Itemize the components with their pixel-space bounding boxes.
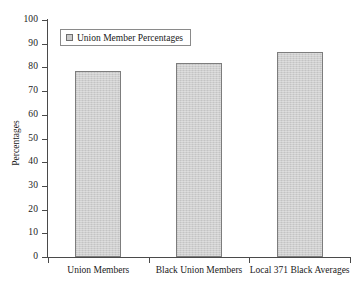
y-axis-tick <box>42 67 47 68</box>
y-axis-tick-label: 30 <box>28 181 38 191</box>
x-axis-tick <box>350 258 351 263</box>
x-axis-tick <box>48 258 49 263</box>
bar-chart: Percentages 0102030405060708090100 Union… <box>0 0 360 288</box>
legend-color-swatch <box>66 34 73 41</box>
x-axis-tick-label: Local 371 Black Averages <box>243 265 356 276</box>
y-axis-tick <box>42 186 47 187</box>
bar <box>277 52 323 257</box>
y-axis-tick <box>42 139 47 140</box>
y-axis-tick-label: 60 <box>28 110 38 120</box>
y-axis-title: Percentages <box>11 83 21 203</box>
bar <box>176 63 222 257</box>
y-axis-tick-label: 50 <box>28 134 38 144</box>
x-axis-tick-label: Black Union Members <box>143 265 256 276</box>
y-axis-tick-label: 10 <box>28 228 38 238</box>
y-axis-tick <box>42 233 47 234</box>
chart-legend: Union Member Percentages <box>60 29 191 46</box>
y-axis-tick-label: 70 <box>28 86 38 96</box>
y-axis-tick <box>42 210 47 211</box>
y-axis-tick-label: 80 <box>28 62 38 72</box>
x-axis-line <box>47 257 351 258</box>
bar <box>75 71 121 257</box>
y-axis-tick-label: 40 <box>28 157 38 167</box>
y-axis-tick <box>42 91 47 92</box>
y-axis-tick <box>42 162 47 163</box>
legend-label: Union Member Percentages <box>77 33 183 43</box>
x-axis-tick <box>149 258 150 263</box>
y-axis-line <box>47 19 48 258</box>
y-axis-tick-label: 100 <box>23 15 38 25</box>
y-axis-tick <box>42 115 47 116</box>
y-axis-tick-label: 0 <box>33 252 38 262</box>
y-axis-tick <box>42 257 47 258</box>
y-axis-tick <box>42 44 47 45</box>
x-axis-tick <box>249 258 250 263</box>
y-axis-tick-label: 20 <box>28 205 38 215</box>
y-axis-tick-label: 90 <box>28 39 38 49</box>
x-axis-tick-label: Union Members <box>42 265 155 276</box>
y-axis-tick <box>42 20 47 21</box>
